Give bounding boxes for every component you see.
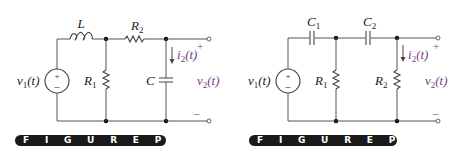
figure-caption-p10-31: F I G U R E P 1 0 – 3 1	[15, 135, 166, 146]
label-R2: R2	[130, 18, 143, 35]
output-terminal-plus	[207, 37, 211, 41]
figure-caption-p10-33: F I G U R E P 1 0 – 3 3	[249, 135, 397, 146]
source-plus-sign: +	[285, 71, 290, 81]
output-plus-sign: +	[433, 40, 439, 52]
output-terminal-minus	[207, 119, 211, 123]
label-R2: R2	[374, 73, 387, 90]
label-L: L	[76, 16, 84, 31]
label-v1: v1(t)	[248, 73, 271, 90]
resistor-R1	[103, 70, 109, 89]
source-plus-sign: +	[54, 71, 59, 81]
label-C: C	[146, 73, 155, 88]
wire	[57, 39, 70, 69]
label-i2: i2(t)	[177, 47, 197, 64]
resistor-R2	[125, 36, 144, 42]
resistor-R1	[333, 70, 339, 89]
wire	[288, 93, 438, 121]
source-minus-sign: –	[54, 81, 61, 92]
label-v2: v2(t)	[197, 73, 220, 90]
label-C2: C2	[363, 14, 376, 31]
inductor-L	[70, 32, 92, 40]
label-i2: i2(t)	[408, 47, 428, 64]
capacitor-C2	[366, 31, 370, 45]
output-minus-sign: –	[193, 107, 200, 119]
label-v1: v1(t)	[17, 73, 40, 90]
wire	[288, 38, 309, 69]
wire	[57, 93, 209, 121]
output-terminal-minus	[436, 119, 440, 123]
output-plus-sign: +	[197, 40, 203, 52]
label-C1: C1	[307, 14, 320, 31]
circuit-p10-31: + – L R2 R1 C v1(t) i2(t) v2(t) + –	[17, 16, 220, 123]
output-minus-sign: –	[432, 107, 439, 119]
circuit-p10-33: + – C1 C2 R1 R2 v1(t) i2(t) v2(t) + –	[248, 14, 448, 123]
capacitor-C	[159, 78, 173, 82]
label-R1: R1	[83, 73, 96, 90]
capacitor-C1	[310, 31, 314, 45]
label-v2: v2(t)	[425, 73, 448, 90]
label-R1: R1	[314, 73, 327, 90]
arrowhead-icon	[401, 57, 406, 62]
arrowhead-icon	[170, 59, 175, 64]
resistor-R2	[394, 70, 400, 89]
source-minus-sign: –	[285, 81, 292, 92]
